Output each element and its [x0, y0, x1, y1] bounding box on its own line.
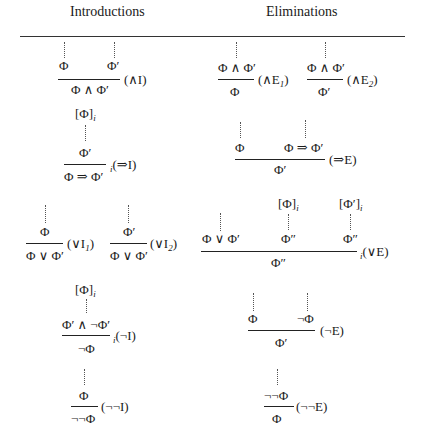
inference-bar [62, 335, 110, 336]
inference-bar [307, 79, 343, 80]
discharged-assumption: [Φ]i [75, 107, 96, 123]
conclusion: Φ ∨ Φ′ [110, 249, 148, 262]
inference-bar [201, 251, 357, 252]
discharged-assumption: [Φ′]i [339, 197, 363, 213]
premise: Φ′ [107, 59, 119, 72]
premise: Φ ∧ Φ′ [218, 61, 256, 74]
premise: Φ′ [123, 225, 135, 238]
inference-bar [218, 79, 254, 80]
conclusion: Φ ∧ Φ′ [71, 83, 109, 96]
rule-label: (∧I) [124, 73, 147, 86]
derivation-dots [350, 214, 353, 230]
premise: Φ′ [79, 146, 91, 159]
derivation-dots [114, 42, 117, 58]
header-rule [20, 36, 405, 37]
rule-label: i(∨E) [360, 245, 389, 261]
inference-bar [26, 243, 63, 244]
premise: ¬¬Φ [264, 389, 288, 402]
premise: Φ″ [343, 232, 358, 245]
inference-bar [110, 243, 147, 244]
conclusion: Φ′ [275, 336, 287, 349]
derivation-dots [86, 299, 89, 313]
inference-bar [58, 79, 120, 80]
derivation-dots [220, 213, 223, 231]
rule-label: (∨I2) [150, 237, 177, 253]
rule-label: (⇒E) [329, 153, 357, 166]
rule-label: (¬¬E) [296, 400, 327, 413]
derivation-dots [253, 293, 256, 311]
premise: Φ [40, 225, 50, 238]
conclusion: Φ [272, 412, 282, 425]
derivation-dots [325, 42, 328, 58]
rule-label: (∧E1) [258, 73, 289, 89]
premise: Φ″ [281, 232, 296, 245]
header-introductions: Introductions [70, 5, 145, 19]
inference-bar [64, 164, 106, 165]
discharged-assumption: [Φ]i [75, 283, 96, 299]
premise: Φ [248, 312, 258, 325]
derivation-dots [84, 369, 87, 385]
conclusion: ¬¬Φ [71, 412, 95, 425]
derivation-dots [277, 369, 280, 385]
derivation-dots [305, 120, 308, 138]
inference-bar [248, 330, 315, 331]
premise: Φ ⇒ Φ′ [284, 141, 323, 154]
derivation-dots [288, 214, 291, 230]
discharged-assumption: [Φ]i [278, 197, 299, 213]
rule-label: (¬¬I) [101, 400, 129, 413]
inference-bar [264, 406, 294, 407]
derivation-dots [307, 293, 310, 311]
rule-label: (∧E2) [347, 73, 378, 89]
derivation-dots [236, 42, 239, 58]
derivation-dots [64, 42, 67, 58]
inference-bar [71, 406, 98, 407]
rule-label: i(⇒I) [110, 158, 136, 174]
conclusion: Φ ∨ Φ′ [26, 249, 64, 262]
premise: Φ [59, 59, 69, 72]
derivation-dots [85, 125, 88, 141]
conclusion: Φ′ [318, 85, 330, 98]
premise: Φ [79, 389, 89, 402]
premise: Φ ∧ Φ′ [307, 61, 345, 74]
derivation-dots [128, 205, 131, 223]
rule-label: (∨I1) [67, 237, 94, 253]
rule-label: i(¬I) [113, 329, 136, 345]
conclusion: ¬Φ [78, 342, 95, 355]
conclusion: Φ ⇒ Φ′ [64, 170, 103, 183]
premise: Φ [235, 141, 245, 154]
premise: ¬Φ [297, 312, 314, 325]
premise: Φ′ ∧ ¬Φ′ [62, 318, 110, 331]
rule-label: (¬E) [320, 324, 344, 337]
derivation-dots [240, 122, 243, 138]
conclusion: Φ [230, 85, 240, 98]
header-eliminations: Eliminations [266, 5, 338, 19]
conclusion: Φ′ [274, 163, 286, 176]
derivation-dots [45, 205, 48, 223]
conclusion: Φ″ [271, 256, 286, 269]
inference-bar [235, 159, 325, 160]
premise: Φ ∨ Φ′ [202, 232, 240, 245]
